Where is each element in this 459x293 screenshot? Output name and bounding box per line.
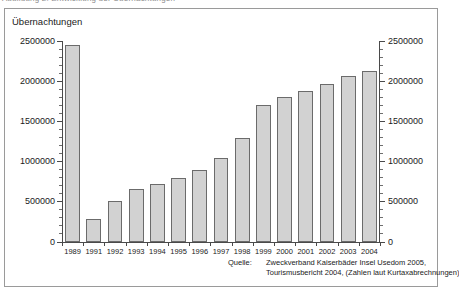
bar — [341, 76, 356, 242]
y-tick-left-minor — [59, 97, 62, 98]
y-tick-right-minor — [380, 185, 383, 186]
y-axis-left-label: 1000000 — [20, 157, 55, 166]
y-tick-right-minor — [380, 169, 383, 170]
y-tick-left-minor — [59, 137, 62, 138]
source-note: Quelle:Zweckverband Kaiserbäder Insel Us… — [228, 258, 459, 278]
source-line-2: Tourismusbericht 2004, (Zahlen laut Kurt… — [228, 268, 459, 278]
y-tick-right-minor — [380, 57, 383, 58]
x-tick — [253, 242, 254, 246]
y-tick-right-minor — [380, 177, 383, 178]
x-axis-label: 1991 — [83, 248, 104, 256]
y-tick-right-major — [380, 81, 385, 82]
x-axis-label: 2004 — [359, 248, 380, 256]
y-axis-left-label: 1500000 — [20, 117, 55, 126]
y-axis-left-label: 2000000 — [20, 77, 55, 86]
y-tick-left-minor — [59, 105, 62, 106]
bar — [192, 170, 207, 242]
y-tick-right-minor — [380, 97, 383, 98]
x-tick — [210, 242, 211, 246]
x-axis-label: 1992 — [104, 248, 125, 256]
y-tick-left-minor — [59, 129, 62, 130]
y-axis-right-label: 2500000 — [388, 37, 423, 46]
y-tick-left-minor — [59, 57, 62, 58]
bar — [277, 97, 292, 242]
x-axis — [62, 242, 380, 243]
y-tick-right-minor — [380, 137, 383, 138]
y-tick-right-minor — [380, 49, 383, 50]
bar — [86, 219, 101, 242]
x-axis-label: 1989 — [62, 248, 83, 256]
y-tick-left-minor — [59, 113, 62, 114]
y-tick-right-minor — [380, 233, 383, 234]
y-axis-right-label: 1000000 — [388, 157, 423, 166]
y-tick-right-minor — [380, 145, 383, 146]
y-tick-left-minor — [59, 73, 62, 74]
y-tick-left-minor — [59, 177, 62, 178]
x-axis-label: 1994 — [147, 248, 168, 256]
y-tick-right-minor — [380, 153, 383, 154]
y-tick-right-minor — [380, 209, 383, 210]
source-line-1: Quelle:Zweckverband Kaiserbäder Insel Us… — [228, 258, 459, 268]
bar — [235, 138, 250, 242]
y-tick-left-minor — [59, 49, 62, 50]
y-tick-left-major — [57, 41, 62, 42]
y-axis-left — [62, 41, 63, 242]
x-tick — [274, 242, 275, 246]
y-axis-right-label: 0 — [388, 238, 393, 247]
bar — [150, 184, 165, 242]
x-axis-label: 1999 — [253, 248, 274, 256]
source-label: Quelle: — [228, 258, 266, 268]
x-axis-label: 2001 — [295, 248, 316, 256]
y-tick-left-minor — [59, 169, 62, 170]
y-tick-left-minor — [59, 89, 62, 90]
y-tick-left-major — [57, 161, 62, 162]
x-axis-label: 2000 — [274, 248, 295, 256]
y-tick-left-minor — [59, 153, 62, 154]
bar — [362, 71, 377, 242]
y-tick-right-minor — [380, 89, 383, 90]
bar — [65, 45, 80, 242]
x-axis-label: 1993 — [126, 248, 147, 256]
y-tick-right-major — [380, 121, 385, 122]
bar — [108, 201, 123, 242]
bar — [298, 91, 313, 242]
x-tick — [359, 242, 360, 246]
y-tick-left-minor — [59, 217, 62, 218]
bar — [129, 189, 144, 242]
y-tick-right-minor — [380, 129, 383, 130]
x-axis-label: 2002 — [316, 248, 337, 256]
bar — [256, 105, 271, 242]
x-tick — [316, 242, 317, 246]
x-axis-label: 1998 — [232, 248, 253, 256]
y-axis-left-label: 0 — [50, 238, 55, 247]
x-tick — [189, 242, 190, 246]
x-tick — [62, 242, 63, 246]
x-tick — [83, 242, 84, 246]
y-tick-left-minor — [59, 233, 62, 234]
source-text-1: Zweckverband Kaiserbäder Insel Usedom 20… — [266, 258, 426, 268]
y-tick-right-minor — [380, 217, 383, 218]
y-tick-right-major — [380, 41, 385, 42]
y-tick-left-major — [57, 81, 62, 82]
y-tick-right-major — [380, 201, 385, 202]
x-axis-label: 1995 — [168, 248, 189, 256]
x-tick — [104, 242, 105, 246]
x-tick — [168, 242, 169, 246]
y-tick-right-minor — [380, 73, 383, 74]
plot-area: 05000001000000150000020000002500000 0500… — [62, 41, 380, 242]
bar — [171, 178, 186, 242]
y-tick-right-minor — [380, 225, 383, 226]
x-axis-label: 1997 — [210, 248, 231, 256]
y-tick-left-minor — [59, 193, 62, 194]
x-tick — [295, 242, 296, 246]
x-tick — [338, 242, 339, 246]
x-tick — [380, 242, 381, 246]
bar — [214, 158, 229, 242]
x-tick — [232, 242, 233, 246]
y-tick-left-minor — [59, 225, 62, 226]
y-axis-left-label: 2500000 — [20, 37, 55, 46]
x-tick — [147, 242, 148, 246]
x-tick — [126, 242, 127, 246]
